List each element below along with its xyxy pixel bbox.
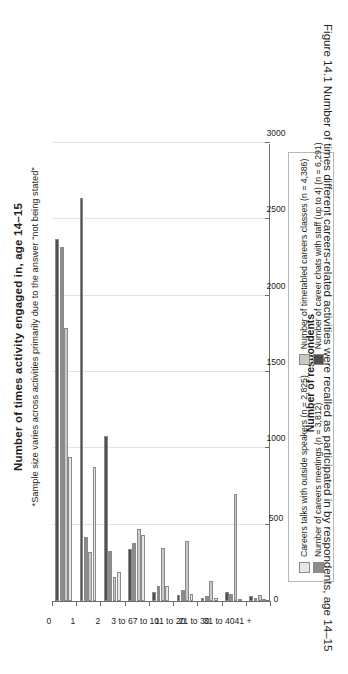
bar	[177, 595, 181, 601]
category-tick	[52, 601, 53, 606]
category-tick	[76, 601, 77, 606]
y-axis-tick-label: 1000	[266, 434, 285, 444]
plot-wrapper: 0500100015002000250030000123 to 67 to 10…	[52, 144, 270, 602]
bar	[238, 599, 242, 601]
category-tick	[246, 601, 247, 606]
category-tick	[125, 601, 126, 606]
bar	[214, 598, 218, 601]
gridline	[52, 218, 269, 219]
legend-swatch	[299, 562, 310, 573]
bar	[165, 587, 169, 602]
bar	[234, 494, 238, 601]
gridline	[52, 295, 269, 296]
plot-area: 0500100015002000250030000123 to 67 to 10…	[52, 144, 270, 602]
bar	[152, 592, 156, 601]
bar	[205, 596, 209, 601]
bar	[84, 537, 88, 601]
bar	[60, 247, 64, 601]
category-tick	[173, 601, 174, 606]
bar	[249, 596, 253, 601]
figure-caption-container: Figure 14.1 Number of times different ca…	[312, 24, 342, 664]
bar	[201, 598, 205, 601]
chart-title: Number of times activity engaged in, age…	[12, 0, 24, 674]
y-axis-tick-label: 1500	[266, 357, 285, 367]
legend-swatch	[299, 354, 310, 365]
bar	[93, 467, 97, 601]
bar	[258, 595, 262, 601]
bar	[108, 551, 112, 601]
chart-canvas: Number of times activity engaged in, age…	[0, 0, 348, 674]
bar	[190, 594, 194, 601]
figure-caption: Figure 14.1 Number of times different ca…	[321, 24, 336, 660]
bar	[185, 541, 189, 601]
legend-item: Careers talks with outside speakers (n =…	[299, 375, 310, 573]
bar	[229, 594, 233, 601]
y-axis-tick	[265, 447, 270, 448]
bar	[141, 535, 145, 601]
bar	[88, 552, 92, 601]
legend-item: Number of timetabled careers classes (n …	[299, 142, 310, 365]
y-axis-tick	[265, 142, 270, 143]
bar	[161, 548, 165, 601]
category-label: 41 +	[223, 616, 263, 626]
bar	[132, 543, 136, 601]
legend-label: Careers talks with outside speakers (n =…	[299, 375, 309, 557]
category-tick	[270, 601, 271, 606]
y-axis-tick-label: 3000	[266, 128, 285, 138]
bar	[209, 581, 213, 601]
chart-subtitle: *Sample size varies across activities pr…	[30, 0, 40, 674]
y-axis-tick	[265, 524, 270, 525]
category-tick	[222, 601, 223, 606]
bar	[80, 198, 84, 601]
bar	[64, 328, 68, 601]
bar	[113, 577, 117, 601]
category-tick	[100, 601, 101, 606]
bar	[137, 529, 141, 601]
bar	[254, 598, 258, 601]
bar	[157, 586, 161, 601]
bar	[55, 239, 59, 601]
y-axis-tick	[265, 371, 270, 372]
bar	[262, 599, 266, 601]
gridline	[52, 371, 269, 372]
legend-label: Number of timetabled careers classes (n …	[299, 159, 309, 350]
y-axis-tick-label: 0	[274, 594, 279, 604]
bar	[225, 592, 229, 601]
category-tick	[197, 601, 198, 606]
chart-figure: Number of times activity engaged in, age…	[0, 0, 348, 674]
y-axis-tick-label: 500	[269, 513, 283, 523]
category-tick	[149, 601, 150, 606]
gridline	[52, 447, 269, 448]
y-axis-tick	[265, 218, 270, 219]
y-axis-tick	[265, 295, 270, 296]
bar	[117, 572, 121, 601]
y-axis-tick-label: 2500	[266, 205, 285, 215]
bar	[68, 458, 72, 602]
bar	[104, 436, 108, 601]
bar	[128, 549, 132, 601]
bar	[181, 590, 185, 601]
gridline	[52, 142, 269, 143]
y-axis-tick-label: 2000	[266, 281, 285, 291]
